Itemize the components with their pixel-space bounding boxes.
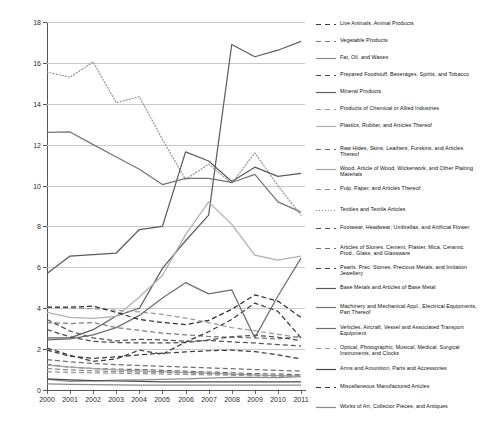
legend-line-icon — [316, 54, 336, 63]
series-line — [47, 384, 301, 385]
legend-item-label: Vehicles, Aircraft, Vessel and Associate… — [340, 324, 478, 337]
legend-item[interactable]: Live Animals, Animal Products — [316, 20, 478, 29]
x-tick-mark — [278, 391, 279, 394]
x-tick-label: 2006 — [178, 396, 194, 403]
chart-legend: Live Animals, Animal ProductsVegetable P… — [316, 18, 482, 400]
legend-item-label: Wood, Article of Wood, Wickerwork, and O… — [340, 165, 478, 178]
x-tick-label: 2008 — [224, 396, 240, 403]
legend-line-icon — [316, 20, 336, 29]
x-axis-line — [47, 390, 306, 391]
legend-item[interactable]: Mineral Products — [316, 88, 478, 97]
x-tick-mark — [116, 391, 117, 394]
legend-item-label: Raw Hides, Skins, Leathers, Furskins, an… — [340, 145, 478, 158]
legend-item-label: Fat, Oil, and Waxes — [340, 54, 478, 60]
legend-item[interactable]: Machinery and Mechanical Appl., Electric… — [316, 303, 478, 316]
legend-line-icon — [316, 365, 336, 374]
legend-item[interactable]: Articles of Stones, Cement, Plaster, Mic… — [316, 244, 478, 257]
legend-line-icon — [316, 244, 336, 253]
legend-line-icon — [316, 224, 336, 233]
x-tick-mark — [47, 391, 48, 394]
x-tick-mark — [186, 391, 187, 394]
legend-item-label: Footwear, Headwear, Umbrellas, and Artif… — [340, 224, 478, 230]
y-tick-label: 0 — [3, 387, 41, 394]
legend-line-icon — [316, 324, 336, 333]
legend-item[interactable]: Footwear, Headwear, Umbrellas, and Artif… — [316, 224, 478, 233]
legend-item[interactable]: Fat, Oil, and Waxes — [316, 54, 478, 63]
x-tick-label: 2010 — [270, 396, 286, 403]
y-tick-label: 8 — [3, 223, 41, 230]
legend-item[interactable]: Products of Chemical or Allied Industrie… — [316, 105, 478, 114]
series-line — [47, 360, 301, 371]
legend-item-label: Mineral Products — [340, 88, 478, 94]
legend-item[interactable]: Vehicles, Aircraft, Vessel and Associate… — [316, 324, 478, 337]
y-tick-label: 16 — [3, 60, 41, 67]
legend-item[interactable]: Miscellaneous Manufactured Articles — [316, 383, 478, 392]
legend-line-icon — [316, 71, 336, 80]
legend-item-label: Products of Chemical or Allied Industrie… — [340, 105, 478, 111]
legend-item-label: Vegetable Products — [340, 37, 478, 43]
legend-line-icon — [316, 122, 336, 131]
legend-item-label: Works of Art, Collector Pieces, and Anti… — [340, 403, 478, 409]
legend-line-icon — [316, 344, 336, 353]
x-tick-mark — [139, 391, 140, 394]
legend-item[interactable]: Plastics, Rubber, and Articles Thereof — [316, 122, 478, 131]
legend-item[interactable]: Raw Hides, Skins, Leathers, Furskins, an… — [316, 145, 478, 158]
chart-plot — [47, 22, 305, 390]
x-tick-mark — [255, 391, 256, 394]
legend-line-icon — [316, 145, 336, 154]
x-tick-label: 2001 — [62, 396, 78, 403]
legend-item[interactable]: Arms and Amunition, Parts and Accessorie… — [316, 365, 478, 374]
legend-item-label: Pulp, Paper, and Articles Thereof — [340, 185, 478, 191]
x-tick-label: 2003 — [108, 396, 124, 403]
y-tick-label: 2 — [3, 346, 41, 353]
legend-line-icon — [316, 88, 336, 97]
legend-item-label: Plastics, Rubber, and Articles Thereof — [340, 122, 478, 128]
legend-line-icon — [316, 185, 336, 194]
legend-item[interactable]: Textiles and Textile Articles — [316, 206, 478, 215]
legend-item-label: Textiles and Textile Articles — [340, 206, 478, 212]
legend-item[interactable]: Pulp, Paper, and Articles Thereof — [316, 185, 478, 194]
series-line — [47, 202, 301, 319]
legend-item-label: Arms and Amunition, Parts and Accessorie… — [340, 365, 478, 371]
legend-line-icon — [316, 105, 336, 114]
series-line — [47, 258, 301, 340]
legend-item-label: Miscellaneous Manufactured Articles — [340, 383, 478, 389]
legend-line-icon — [316, 303, 336, 312]
legend-item[interactable]: Prepared Foodstuff, Beverages, Spirits, … — [316, 71, 478, 80]
series-line — [47, 132, 301, 212]
legend-line-icon — [316, 403, 336, 412]
x-tick-label: 2004 — [131, 396, 147, 403]
chart-root: 024681012141618 200020012002200320042005… — [0, 0, 482, 421]
x-tick-mark — [301, 391, 302, 394]
series-line — [47, 365, 301, 376]
y-tick-label: 6 — [3, 264, 41, 271]
legend-line-icon — [316, 37, 336, 46]
legend-item[interactable]: Wood, Article of Wood, Wickerwork, and O… — [316, 165, 478, 178]
x-tick-mark — [70, 391, 71, 394]
series-line — [47, 295, 301, 325]
legend-line-icon — [316, 206, 336, 215]
legend-item[interactable]: Vegetable Products — [316, 37, 478, 46]
x-tick-label: 2011 — [293, 396, 308, 403]
y-tick-label: 10 — [3, 183, 41, 190]
legend-item[interactable]: Optical, Photographic, Musical, Medical,… — [316, 344, 478, 357]
legend-item[interactable]: Works of Art, Collector Pieces, and Anti… — [316, 403, 478, 412]
legend-item[interactable]: Base Metals and Articles of Base Metal — [316, 284, 478, 293]
x-tick-label: 2007 — [201, 396, 217, 403]
x-tick-mark — [93, 391, 94, 394]
x-tick-label: 2005 — [154, 396, 170, 403]
y-tick-label: 12 — [3, 142, 41, 149]
legend-item[interactable]: Pearls, Prec. Stones, Precious Metals, a… — [316, 264, 478, 277]
legend-line-icon — [316, 284, 336, 293]
series-line — [47, 62, 301, 215]
series-line — [47, 350, 301, 359]
legend-line-icon — [316, 165, 336, 174]
legend-item-label: Base Metals and Articles of Base Metal — [340, 284, 478, 290]
legend-item-label: Articles of Stones, Cement, Plaster, Mic… — [340, 244, 478, 257]
y-tick-label: 4 — [3, 305, 41, 312]
x-tick-label: 2000 — [39, 396, 55, 403]
x-tick-mark — [209, 391, 210, 394]
legend-line-icon — [316, 264, 336, 273]
legend-item-label: Prepared Foodstuff, Beverages, Spirits, … — [340, 71, 478, 77]
legend-line-icon — [316, 383, 336, 392]
